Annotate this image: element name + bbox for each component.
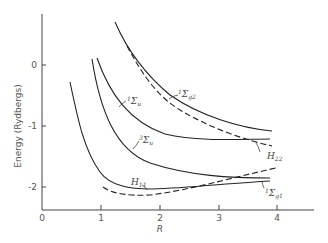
energy-curve-chart: 0 -1 -2 0 1 2 3 4 R Energy (Rydbergs) xyxy=(0,0,328,243)
y-tick-label: 0 xyxy=(31,60,37,70)
curve-sigma-u3 xyxy=(92,59,270,178)
x-tick-label: 2 xyxy=(157,213,163,223)
x-tick-label: 4 xyxy=(274,213,280,223)
x-tick-label: 3 xyxy=(216,213,222,223)
x-axis-title: R xyxy=(157,224,163,234)
label-h11: H11 xyxy=(130,177,147,188)
y-tick-labels: 0 -1 -2 xyxy=(28,60,37,192)
curves xyxy=(70,22,276,195)
label-sigma-g2: 1Σg2 xyxy=(178,88,196,101)
label-sigma-u1: 1Σu xyxy=(127,95,141,107)
x-tick-label: 0 xyxy=(39,213,45,223)
label-sigma-g1: 1Σg1 xyxy=(265,187,283,200)
leader-sigma-u3 xyxy=(133,141,139,149)
leader-sigma-g1 xyxy=(262,181,264,188)
annotation-leaders xyxy=(119,95,264,190)
curve-h22 xyxy=(127,46,272,146)
label-sigma-u3: 3Σu xyxy=(139,134,153,146)
x-tick-labels: 0 1 2 3 4 xyxy=(39,213,280,223)
annotations: 1Σu 3Σu 1Σg2 H22 H11 1Σg1 xyxy=(127,88,283,200)
leader-h22 xyxy=(256,143,260,152)
y-tick-label: -2 xyxy=(28,182,37,192)
y-axis-title: Energy (Rydbergs) xyxy=(13,84,23,167)
axes xyxy=(42,14,314,210)
curve-sigma-g2 xyxy=(115,22,272,131)
x-tick-label: 1 xyxy=(98,213,104,223)
label-h22: H22 xyxy=(266,151,283,162)
y-tick-label: -1 xyxy=(28,121,37,131)
